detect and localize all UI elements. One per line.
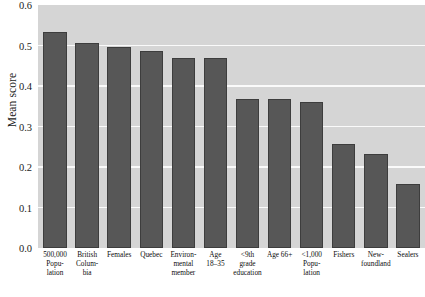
x-axis-tick-label-line: lation [296, 268, 328, 277]
x-axis-tick-label: <9thgradeeducation [231, 250, 263, 297]
bar-slot [264, 5, 296, 248]
bar-slot [103, 5, 135, 248]
bar[interactable] [300, 102, 323, 248]
bar[interactable] [140, 51, 163, 248]
x-axis-tick-label-line: lation [39, 268, 71, 277]
x-axis-tick-labels: 500,000Popu-lationBritishColum-biaFemale… [38, 250, 425, 297]
bar[interactable] [268, 99, 291, 248]
x-axis-tick-label: Quebec [135, 250, 167, 297]
bar[interactable] [364, 154, 387, 248]
y-axis-tick-labels: 0.60.50.40.30.20.10.0 [0, 0, 35, 260]
bar-slot [360, 5, 392, 248]
x-axis-tick-label: Females [103, 250, 135, 297]
y-axis-tick-label: 0.1 [19, 202, 32, 213]
bar-slot [39, 5, 71, 248]
x-axis-tick-label-line: foundland [360, 259, 392, 268]
x-axis-tick-label-line: bia [71, 268, 103, 277]
bar[interactable] [43, 32, 66, 248]
x-axis-tick-label: Age 66+ [264, 250, 296, 297]
bar[interactable] [204, 58, 227, 248]
bar-slot [167, 5, 199, 248]
x-axis-tick-label-line: Environ- [167, 250, 199, 259]
x-axis-tick-label-line: member [167, 268, 199, 277]
x-axis-tick-label: Environ-mentalmember [167, 250, 199, 297]
x-axis-tick-label-line: Age [199, 250, 231, 259]
x-axis-tick-label-line: Popu- [39, 259, 71, 268]
x-axis-tick-label-line: Sealers [392, 250, 424, 259]
y-axis-tick-label: 0.5 [19, 40, 32, 51]
x-axis-tick-label: Sealers [392, 250, 424, 297]
bar-slot [135, 5, 167, 248]
bars-layer [38, 5, 425, 248]
bar-slot [296, 5, 328, 248]
bar-slot [328, 5, 360, 248]
x-axis-tick-label-line: Quebec [135, 250, 167, 259]
bar[interactable] [236, 99, 259, 248]
bar-slot [231, 5, 263, 248]
bar[interactable] [107, 47, 130, 248]
y-axis-tick-label: 0.6 [19, 0, 32, 11]
x-axis-tick-label: <1,000Popu-lation [296, 250, 328, 297]
x-axis-tick-label-line: 500,000 [39, 250, 71, 259]
x-axis-tick-label-line: New- [360, 250, 392, 259]
x-axis-tick-label-line: Females [103, 250, 135, 259]
x-axis-tick-label-line: Fishers [328, 250, 360, 259]
x-axis-tick-label: 500,000Popu-lation [39, 250, 71, 297]
bar-slot [392, 5, 424, 248]
x-axis-tick-label-line: education [231, 268, 263, 277]
plot-area [38, 5, 425, 248]
x-axis-tick-label-line: grade [231, 259, 263, 268]
x-axis-tick-label-line: <1,000 [296, 250, 328, 259]
x-axis-tick-label: BritishColum-bia [71, 250, 103, 297]
x-axis-tick-label: New-foundland [360, 250, 392, 297]
x-axis-tick-label-line: mental [167, 259, 199, 268]
x-axis-tick-label: Age18–35 [199, 250, 231, 297]
x-axis-tick-label-line: Popu- [296, 259, 328, 268]
x-axis-tick-label-line: <9th [231, 250, 263, 259]
bar-slot [71, 5, 103, 248]
x-axis-tick-label-line: Age 66+ [264, 250, 296, 259]
bar[interactable] [75, 43, 98, 248]
bar-slot [199, 5, 231, 248]
bar[interactable] [396, 184, 419, 248]
y-axis-tick-label: 0.4 [19, 81, 32, 92]
bar[interactable] [172, 58, 195, 248]
bar[interactable] [332, 144, 355, 248]
y-axis-tick-label: 0.3 [19, 121, 32, 132]
x-axis-tick-label-line: 18–35 [199, 259, 231, 268]
x-axis-tick-label-line: British [71, 250, 103, 259]
y-axis-tick-label: 0.0 [19, 243, 32, 254]
y-axis-tick-label: 0.2 [19, 162, 32, 173]
x-axis-tick-label: Fishers [328, 250, 360, 297]
bar-chart: Mean score 0.60.50.40.30.20.10.0 500,000… [0, 0, 425, 297]
x-axis-tick-label-line: Colum- [71, 259, 103, 268]
